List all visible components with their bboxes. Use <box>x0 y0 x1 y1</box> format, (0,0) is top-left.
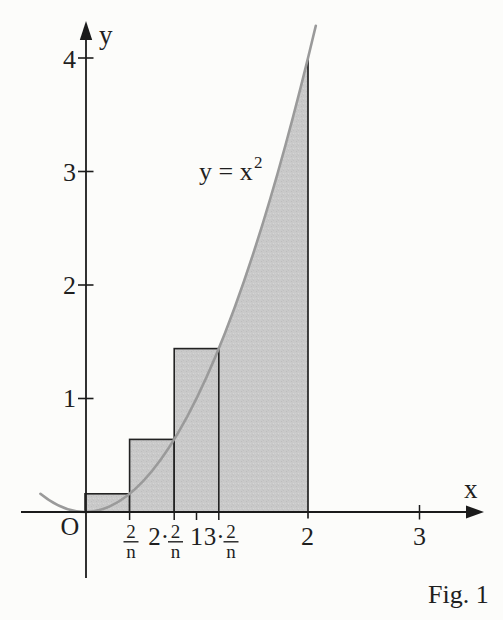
fraction-3-numerator: 2 <box>226 521 236 542</box>
figure-page: y x O 1 2 3 4 2 n 2· 2 n 1 3· 2 n 2 3 y … <box>0 0 503 620</box>
fraction-1-denominator: n <box>126 541 136 562</box>
x-axis-label: x <box>464 474 478 504</box>
y-axis-label: y <box>99 20 113 50</box>
fraction-3-coefficient: 3· <box>204 523 225 550</box>
x-tick-label-2: 2 <box>301 522 314 551</box>
x-axis-arrow-icon <box>466 506 484 519</box>
x-tick-label-3: 3 <box>413 522 426 551</box>
fraction-1-numerator: 2 <box>126 521 136 542</box>
origin-label: O <box>61 512 80 541</box>
fraction-3-denominator: n <box>226 541 236 562</box>
x-tick-label-1: 1 <box>190 522 203 551</box>
y-tick-label-2: 2 <box>63 271 76 300</box>
riemann-rectangle-1 <box>85 494 130 512</box>
y-tick-label-3: 3 <box>63 158 76 187</box>
y-axis-arrow-icon <box>80 21 92 40</box>
curve-equation-exponent: 2 <box>254 153 263 172</box>
riemann-sum-figure: y x O 1 2 3 4 2 n 2· 2 n 1 3· 2 n 2 3 y … <box>0 0 503 620</box>
y-tick-label-1: 1 <box>63 384 76 413</box>
fraction-2-numerator: 2 <box>171 521 181 542</box>
fraction-2-coefficient: 2· <box>148 523 169 550</box>
y-tick-label-4: 4 <box>63 45 76 74</box>
figure-caption: Fig. 1 <box>428 580 489 609</box>
fraction-2-denominator: n <box>171 541 181 562</box>
curve-equation-label: y = x <box>199 157 253 186</box>
